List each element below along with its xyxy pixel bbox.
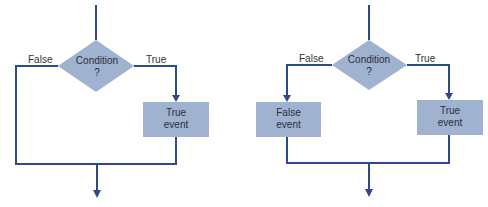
true-branch-label: True: [415, 53, 435, 65]
false-event-line1: False: [256, 107, 321, 119]
true-event-line1: True: [143, 107, 209, 119]
true-event-line2: event: [143, 119, 209, 131]
decision-label: Condition ?: [71, 55, 123, 79]
decision-line2: ?: [71, 67, 123, 79]
decision-label: Condition ?: [343, 54, 395, 78]
true-branch-line: [134, 66, 176, 97]
if-then-diagram: [15, 5, 209, 198]
arrow-down-icon: [172, 95, 180, 102]
arrow-down-icon: [93, 190, 101, 198]
false-branch-line: [287, 65, 332, 96]
false-branch-line: [16, 66, 58, 164]
arrow-down-icon: [365, 189, 373, 197]
decision-line1: Condition: [71, 55, 123, 67]
false-event-line2: event: [256, 119, 321, 131]
false-branch-label: False: [28, 54, 52, 66]
true-event-label: True event: [417, 105, 483, 129]
true-event-line2: event: [417, 117, 483, 129]
arrow-down-icon: [283, 95, 291, 102]
true-branch-label: True: [146, 54, 166, 66]
if-then-else-diagram: [256, 5, 483, 197]
true-event-line1: True: [417, 105, 483, 117]
flowchart-canvas: [0, 0, 488, 207]
arrow-down-icon: [445, 93, 453, 100]
decision-line1: Condition: [343, 54, 395, 66]
false-event-label: False event: [256, 107, 321, 131]
true-branch-line: [407, 65, 449, 94]
decision-line2: ?: [343, 66, 395, 78]
false-branch-label: False: [299, 53, 323, 65]
true-event-label: True event: [143, 107, 209, 131]
